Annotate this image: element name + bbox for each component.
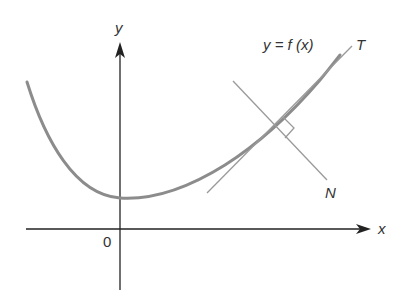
y-axis-label: y <box>114 19 124 36</box>
normal-line <box>233 81 327 180</box>
tangent-line <box>207 46 352 193</box>
tangent-label: T <box>356 36 367 53</box>
origin-label: 0 <box>103 233 111 250</box>
x-axis <box>26 224 371 234</box>
y-axis <box>115 42 125 290</box>
diagram-canvas: y x 0 y = f (x) T N <box>0 0 405 295</box>
normal-label: N <box>325 184 336 201</box>
x-axis-label: x <box>377 220 386 237</box>
curve-label: y = f (x) <box>262 36 313 53</box>
